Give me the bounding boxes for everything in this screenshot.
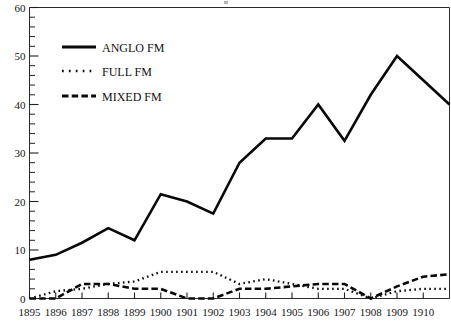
chart-legend: ANGLO FMFULL FMMIXED FM	[62, 41, 165, 104]
x-tick-label: 1905	[281, 306, 304, 318]
legend-label-anglo-fm: ANGLO FM	[102, 41, 165, 55]
x-tick-label: 1902	[202, 306, 224, 318]
plot-frame	[30, 8, 450, 299]
x-tick-label: 1903	[229, 306, 252, 318]
x-tick-label: 1896	[45, 306, 68, 318]
x-tick-label: 1895	[19, 306, 42, 318]
x-tick-label: 1907	[334, 306, 357, 318]
x-axis: 1895189618971898189919001901190219031904…	[19, 293, 435, 318]
x-tick-label: 1909	[386, 306, 409, 318]
x-tick-label: 1897	[71, 306, 94, 318]
chart-container: 0102030405060 18951896189718981899190019…	[0, 0, 451, 323]
x-tick-label: 1901	[176, 306, 198, 318]
legend-label-mixed-fm: MIXED FM	[102, 90, 162, 104]
y-tick-label: 10	[15, 244, 27, 256]
series-group	[30, 56, 450, 299]
x-tick-label: 1908	[360, 306, 383, 318]
legend-label-full-fm: FULL FM	[102, 65, 152, 79]
y-tick-label: 20	[15, 196, 27, 208]
line-chart: 0102030405060 18951896189718981899190019…	[0, 0, 451, 323]
y-tick-label: 30	[15, 147, 27, 159]
x-tick-label: 1898	[97, 306, 120, 318]
y-tick-label: 50	[15, 50, 27, 62]
x-tick-label: 1899	[124, 306, 147, 318]
y-tick-label: 60	[15, 2, 27, 14]
x-tick-label: 1906	[307, 306, 330, 318]
x-tick-label: 1900	[150, 306, 173, 318]
x-tick-label: 1910	[412, 306, 435, 318]
y-tick-label: 40	[15, 99, 27, 111]
x-tick-label: 1904	[255, 306, 278, 318]
y-tick-label: 0	[20, 293, 26, 305]
series-line-anglo-fm	[30, 56, 450, 260]
